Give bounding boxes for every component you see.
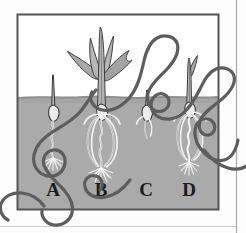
- label-c: C: [139, 179, 153, 200]
- label-d: D: [182, 179, 196, 200]
- seedling-a-seed: [49, 105, 60, 121]
- illustration-canvas: A B C D: [0, 0, 246, 233]
